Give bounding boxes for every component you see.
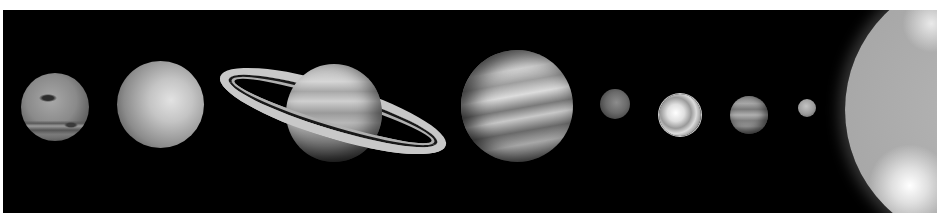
venus-planet: Venus [730, 96, 768, 134]
mars-planet: Mars [600, 89, 630, 119]
uranus-planet: Uranus [117, 61, 204, 148]
space-background: Neptune Uranus Saturn Jupiter Mars Earth… [3, 10, 937, 213]
neptune-planet: Neptune [21, 73, 89, 141]
saturn-system: Saturn [215, 54, 451, 172]
mercury-planet: Mercury [798, 99, 816, 117]
jupiter-planet: Jupiter [461, 50, 573, 162]
earth-planet: Earth [659, 94, 701, 136]
sun-star: Sun [845, 10, 937, 213]
